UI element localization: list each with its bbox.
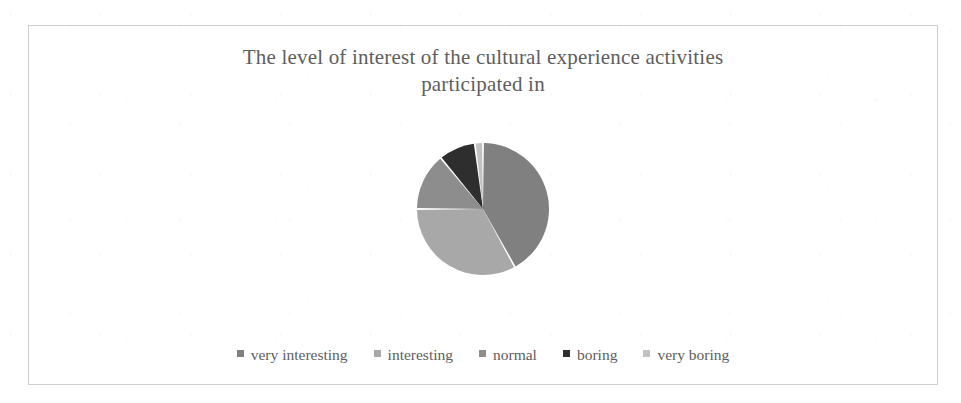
- chart-title-line-2: participated in: [29, 71, 937, 98]
- pie-slice-group: very interesting: 42%interesting: 33%nor…: [417, 143, 549, 275]
- legend-item-label: very interesting: [251, 347, 348, 363]
- chart-legend: very interestinginterestingnormalboringv…: [29, 347, 937, 363]
- legend-item-label: boring: [577, 347, 617, 363]
- square-marker: [374, 350, 381, 357]
- legend-item-interesting[interactable]: interesting: [374, 347, 453, 363]
- legend-item-very-boring[interactable]: very boring: [643, 347, 729, 363]
- legend-item-boring[interactable]: boring: [563, 347, 617, 363]
- legend-item-normal[interactable]: normal: [479, 347, 537, 363]
- pie-chart-area: very interesting: 42%interesting: 33%nor…: [29, 121, 937, 301]
- chart-title: The level of interest of the cultural ex…: [29, 44, 937, 98]
- chart-title-line-1: The level of interest of the cultural ex…: [29, 44, 937, 71]
- legend-item-label: interesting: [388, 347, 453, 363]
- square-marker: [237, 350, 244, 357]
- square-marker: [479, 350, 486, 357]
- legend-item-label: normal: [493, 347, 537, 363]
- legend-item-label: very boring: [657, 347, 729, 363]
- legend-item-very-interesting[interactable]: very interesting: [237, 347, 348, 363]
- pie-chart: very interesting: 42%interesting: 33%nor…: [253, 121, 713, 301]
- chart-frame: The level of interest of the cultural ex…: [28, 25, 938, 385]
- square-marker: [643, 350, 650, 357]
- square-marker: [563, 350, 570, 357]
